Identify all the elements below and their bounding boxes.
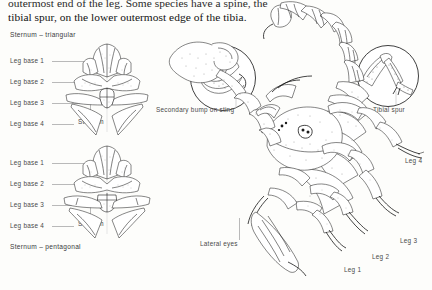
sternum-pentagonal-illustration [52, 142, 162, 240]
sternum-triangular-title: Sternum – triangular [10, 31, 76, 39]
callout-leg-base-3-triangular: Leg base 3 [10, 99, 44, 107]
book-page: outermost end of the leg. Some species h… [0, 0, 432, 290]
callout-leg-base-4-triangular: Leg base 4 [10, 120, 44, 128]
callout-leg-base-2-pentagonal: Leg base 2 [10, 180, 44, 188]
sternum-pentagonal-title: Sternum – pentagonal [10, 243, 81, 251]
callout-leg-base-4-pentagonal: Leg base 4 [10, 222, 44, 230]
callout-leg-3: Leg 3 [400, 237, 417, 245]
callout-leg-2: Leg 2 [372, 253, 389, 261]
callout-leg-base-3-pentagonal: Leg base 3 [10, 201, 44, 209]
callout-leg-base-1-pentagonal: Leg base 1 [10, 159, 44, 167]
leader-line [239, 218, 240, 240]
callout-leg-base-2-triangular: Leg base 2 [10, 78, 44, 86]
callout-lateral-eyes: Lateral eyes [200, 240, 238, 248]
callout-leg-base-1-triangular: Leg base 1 [10, 57, 44, 65]
callout-leg-1: Leg 1 [344, 266, 361, 274]
callout-leg-4: Leg 4 [405, 157, 422, 165]
sternum-triangular-illustration [52, 40, 162, 138]
